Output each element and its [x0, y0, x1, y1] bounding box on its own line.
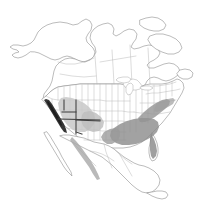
- lake-erie-ontario: [140, 86, 153, 90]
- alaska-outline: [10, 19, 95, 62]
- distribution-map-figure: [0, 0, 210, 217]
- newfoundland: [177, 69, 193, 79]
- north-america-map: [0, 0, 210, 217]
- central-america: [147, 191, 168, 199]
- greenland-arctic-islands: [140, 17, 166, 31]
